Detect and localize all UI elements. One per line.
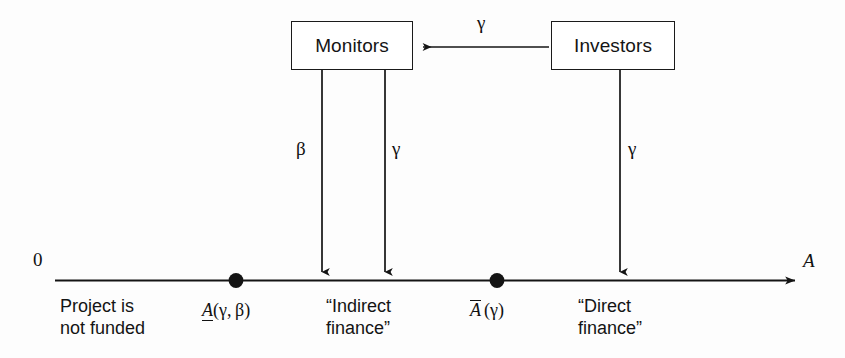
threshold-symbol-upper: A: [470, 300, 481, 319]
edge-label-monitors-gamma: γ: [392, 138, 400, 160]
region-indirect-line2: finance”: [326, 318, 391, 340]
region-label-direct-finance: “Direct finance”: [578, 296, 642, 340]
axis-variable-label: A: [803, 250, 815, 272]
edge-label-investors-gamma: γ: [628, 138, 636, 160]
region-direct-line2: finance”: [578, 318, 642, 340]
region-label-indirect-finance: “Indirect finance”: [326, 296, 391, 340]
threshold-dot-lower: [229, 273, 244, 288]
edge-label-monitors-beta: β: [296, 138, 306, 160]
financing-regimes-diagram: Monitors Investors γ β γ γ 0 A A(γ, β) A…: [0, 0, 845, 358]
region-not-funded-line1: Project is: [60, 296, 145, 318]
region-indirect-line1: “Indirect: [326, 296, 391, 318]
node-investors-label: Investors: [574, 35, 652, 57]
region-not-funded-line2: not funded: [60, 318, 145, 340]
node-investors[interactable]: Investors: [551, 21, 675, 70]
threshold-args-upper: (γ): [484, 300, 504, 320]
region-direct-line1: “Direct: [578, 296, 642, 318]
threshold-args-lower: (γ, β): [213, 300, 250, 320]
axis-origin-label: 0: [33, 249, 43, 271]
threshold-symbol-lower: A: [202, 300, 213, 321]
threshold-label-lower: A(γ, β): [202, 300, 250, 321]
edge-label-investors-to-monitors: γ: [477, 12, 485, 34]
threshold-label-upper: A(γ): [470, 300, 504, 321]
node-monitors-label: Monitors: [315, 35, 389, 57]
threshold-dot-upper: [490, 273, 505, 288]
region-label-not-funded: Project is not funded: [60, 296, 145, 340]
node-monitors[interactable]: Monitors: [291, 21, 413, 70]
